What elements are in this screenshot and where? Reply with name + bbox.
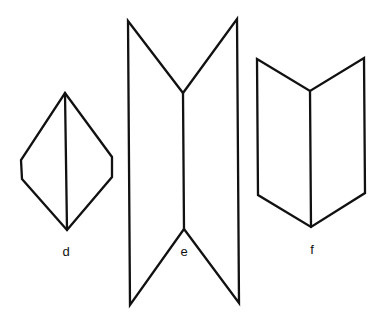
figure-f-label: f [310, 242, 314, 257]
figure-d-fold-line [65, 93, 67, 230]
figure-e-fold-line [183, 93, 184, 229]
figure-e: e [128, 19, 239, 305]
figure-f-fold-line [310, 91, 311, 227]
folded-figures-diagram: d e f [0, 0, 387, 326]
figure-f: f [257, 58, 365, 257]
figure-e-label: e [180, 244, 187, 259]
figure-d: d [21, 93, 112, 259]
figure-d-label: d [62, 244, 69, 259]
